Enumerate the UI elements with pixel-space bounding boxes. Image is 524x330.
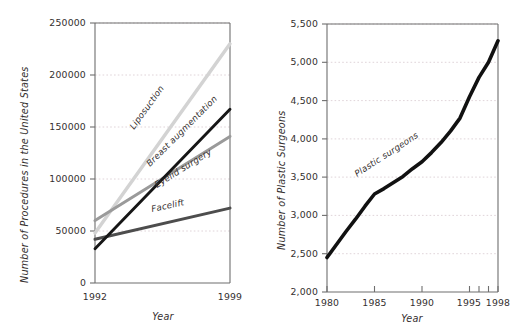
y-axis-title-procedures: Number of Procedures in the United State… — [19, 66, 30, 283]
grid-lines-procedures — [95, 23, 230, 231]
chart-panel-surgeons: Number of Plastic Surgeons — [262, 0, 524, 330]
series-line-facelift — [95, 208, 230, 239]
x-tick-label: 1980 — [315, 297, 339, 308]
y-axis-title-surgeons: Number of Plastic Surgeons — [276, 110, 287, 250]
x-tick-label: 1992 — [83, 291, 107, 302]
y-tick-label: 2,500 — [290, 248, 318, 259]
y-tick-label: 100000 — [49, 173, 86, 184]
axis-frame-surgeons — [327, 24, 498, 292]
x-tick-label: 1990 — [410, 297, 434, 308]
x-tick-label: 1998 — [486, 297, 510, 308]
y-tick-marks-procedures — [90, 23, 95, 283]
y-tick-label: 50000 — [55, 225, 86, 236]
y-tick-label: 4,500 — [290, 95, 318, 106]
x-tick-label: 1999 — [218, 291, 242, 302]
y-tick-label: 200000 — [49, 69, 86, 80]
y-tick-label: 5,000 — [290, 56, 318, 67]
x-axis-title-surgeons: Year — [401, 313, 423, 324]
y-tick-label: 3,000 — [290, 209, 318, 220]
y-tick-label: 150000 — [49, 121, 86, 132]
x-tick-marks-surgeons — [327, 286, 498, 292]
y-tick-label: 2,000 — [290, 286, 318, 297]
y-tick-label: 250000 — [49, 17, 86, 28]
y-tick-label: 5,500 — [290, 18, 318, 29]
surgeons-chart-svg: Number of Plastic Surgeons — [262, 0, 524, 330]
chart-panel-procedures: Number of Procedures in the United State… — [0, 0, 262, 330]
y-tick-marks-surgeons — [322, 24, 327, 292]
y-tick-label: 0 — [80, 277, 86, 288]
y-tick-label: 3,500 — [290, 171, 318, 182]
series-label-liposuction: Liposuction — [128, 83, 166, 131]
series-label-facelift: Facelift — [150, 197, 185, 214]
x-tick-label: 1985 — [362, 297, 386, 308]
series-line-plastic-surgeons — [327, 41, 498, 258]
procedures-chart-svg: Number of Procedures in the United State… — [0, 0, 262, 330]
x-axis-title-procedures: Year — [152, 311, 174, 322]
y-tick-label: 4,000 — [290, 133, 318, 144]
two-panel-line-chart-figure: Number of Procedures in the United State… — [0, 0, 524, 330]
x-tick-label: 1995 — [457, 297, 481, 308]
